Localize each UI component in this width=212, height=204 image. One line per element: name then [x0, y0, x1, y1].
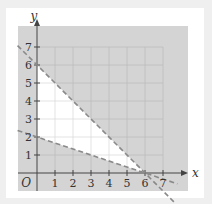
- y-axis-label: y: [30, 9, 38, 23]
- x-tick-label: 3: [88, 177, 95, 190]
- y-tick-label: 7: [25, 41, 32, 54]
- inequality-graph: 12345671234567Oxy: [0, 0, 212, 204]
- y-tick-label: 4: [25, 95, 32, 108]
- y-tick-label: 2: [25, 131, 32, 144]
- y-tick-label: 5: [25, 77, 32, 90]
- x-tick-label: 4: [106, 177, 113, 190]
- y-tick-label: 6: [25, 59, 32, 72]
- y-tick-label: 1: [25, 149, 32, 162]
- x-tick-label: 6: [142, 177, 149, 190]
- x-tick-label: 7: [160, 177, 167, 190]
- y-tick-label: 3: [25, 113, 32, 126]
- origin-label: O: [21, 176, 31, 190]
- x-tick-label: 5: [124, 177, 131, 190]
- x-tick-label: 2: [70, 177, 77, 190]
- x-axis-label: x: [192, 166, 199, 180]
- x-tick-label: 1: [52, 177, 59, 190]
